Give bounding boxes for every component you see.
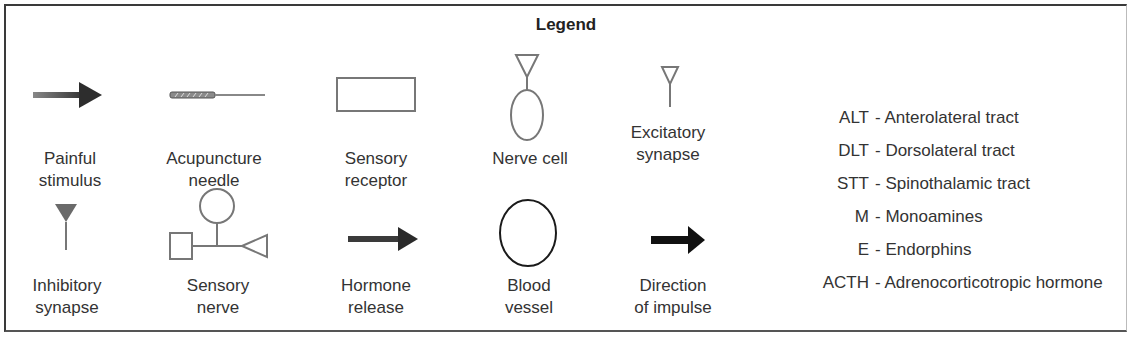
abbreviation-row: M - Monoamines [770,206,1103,239]
abbreviation-row: E - Endorphins [770,239,1103,272]
abbreviation-value: - Endorphins [875,239,971,272]
dark-arrow-icon [310,220,450,260]
gradient-arrow-icon [0,70,140,140]
legend-label: Inhibitory synapse [0,275,137,319]
legend-label: Hormone release [306,275,446,319]
abbreviation-value: - Spinothalamic tract [875,173,1030,206]
rectangle-icon [290,70,430,140]
needle-icon [150,70,290,140]
abbreviation-row: ACTH - Adrenocorticotropic hormone [770,272,1103,305]
legend-label: Blood vessel [459,275,599,319]
abbreviation-row: ALT - Anterolateral tract [770,107,1103,140]
black-arrow-icon [605,225,745,265]
abbreviation-value: - Adrenocorticotropic hormone [875,272,1103,305]
legend-label: Excitatory synapse [598,122,738,166]
abbreviation-row: DLT - Dorsolateral tract [770,140,1103,173]
legend-title: Legend [0,15,1132,35]
legend-label: Sensory nerve [148,275,288,319]
abbreviation-list: ALT - Anterolateral tract DLT - Dorsolat… [770,107,1103,305]
filled-triangle-synapse-icon [0,200,140,260]
abbreviation-key: STT [770,173,875,206]
legend-label: Direction of impulse [603,275,743,319]
legend-label: Sensory receptor [306,148,446,192]
abbreviation-key: E [770,239,875,272]
legend-label: Painful stimulus [0,148,140,192]
abbreviation-key: ALT [770,107,875,140]
abbreviation-key: ACTH [770,272,875,305]
abbreviation-row: STT - Spinothalamic tract [770,173,1103,206]
open-triangle-synapse-icon [600,62,740,122]
abbreviation-key: DLT [770,140,875,173]
abbreviation-value: - Dorsolateral tract [875,140,1015,173]
legend-label: Nerve cell [460,148,600,170]
sensory-nerve-icon [150,185,290,265]
ellipse-icon [460,195,600,275]
nerve-cell-icon [460,50,600,150]
abbreviation-key: M [770,206,875,239]
abbreviation-value: - Monoamines [875,206,983,239]
abbreviation-value: - Anterolateral tract [875,107,1019,140]
